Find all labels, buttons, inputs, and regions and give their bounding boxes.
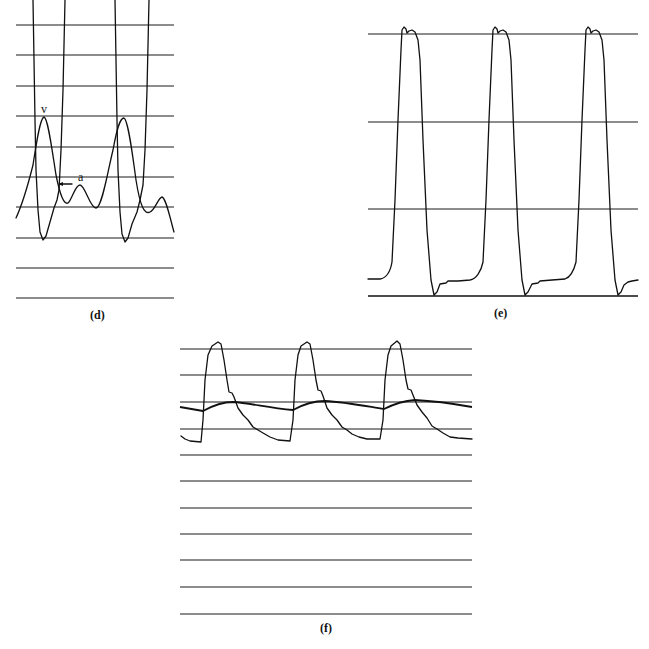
panel-f: (f)	[180, 341, 472, 635]
panel-e-ventricular-trace	[368, 27, 638, 295]
panel-e: (e)	[368, 27, 638, 320]
panel-f-arterial-trace	[181, 341, 472, 442]
annotation-a: a	[78, 170, 84, 184]
panel-d-gridlines	[16, 25, 174, 298]
annotation-v: v	[41, 102, 47, 116]
panel-d-pressure-trace	[33, 0, 149, 242]
panel-e-gridlines	[368, 34, 638, 296]
panel-d: v a (d)	[16, 0, 174, 322]
figure-canvas: v a (d) (e)	[0, 0, 649, 649]
panel-d-venous-trace	[16, 117, 174, 232]
panel-e-label: (e)	[494, 306, 507, 320]
panel-d-label: (d)	[90, 308, 105, 322]
panel-f-gridlines	[180, 349, 472, 614]
panel-f-label: (f)	[320, 621, 332, 635]
